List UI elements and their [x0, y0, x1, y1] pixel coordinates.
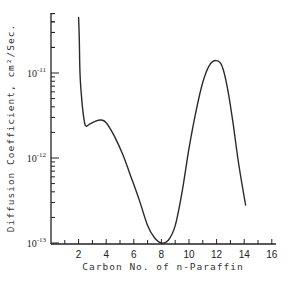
x-tick-label: 6	[131, 249, 137, 260]
x-tick-label: 8	[159, 249, 165, 260]
y-tick-label: 10-11	[27, 66, 47, 79]
x-ticks: 246810121416	[65, 239, 278, 260]
x-tick-label: 16	[266, 249, 278, 260]
x-tick-label: 12	[211, 249, 223, 260]
x-tick-label: 10	[183, 249, 195, 260]
x-tick-label: 4	[103, 249, 109, 260]
y-axis-title: Diffusion Coefficient, cm²/Sec.	[5, 24, 16, 232]
y-ticks: 10-1110-1210-13	[27, 14, 59, 249]
x-tick-label: 2	[76, 249, 82, 260]
x-tick-label: 14	[239, 249, 251, 260]
y-tick-label: 10-13	[27, 236, 47, 249]
y-tick-label: 10-12	[27, 151, 47, 164]
axes	[51, 13, 276, 244]
diffusion-curve-line	[79, 18, 246, 244]
x-axis-title: Carbon No. of n-Paraffin	[82, 261, 243, 272]
diffusion-coefficient-chart: 10-1110-1210-13 246810121416 Carbon No. …	[0, 0, 290, 288]
